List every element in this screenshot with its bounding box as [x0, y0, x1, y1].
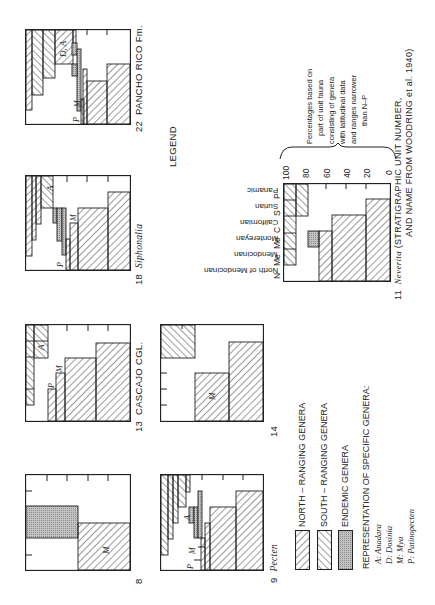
abbrev-n: N — [272, 273, 282, 279]
panel-13-chart — [25, 324, 131, 422]
legend-specific-a: A: Anadara — [373, 524, 383, 564]
panel-18-chart — [25, 175, 131, 271]
tick-40: 40 — [342, 169, 352, 178]
legend-caption-1: 11 Neverita (STRATIGRAPHIC UNIT NUMBER, — [393, 97, 403, 300]
panel-22-name: PANCHO RICO Fm. — [133, 25, 144, 115]
note-line-3: consisting of genera — [327, 77, 336, 144]
axis-tick-labels: 100 80 60 40 20 0 — [283, 160, 393, 182]
legend-caption-2: AND NAME FROM WOODRING et al. 1940) — [404, 48, 414, 237]
label-p: P — [72, 117, 81, 122]
swatch-north-ranging — [295, 530, 310, 570]
caption-text-1: (STRATIGRAPHIC UNIT NUMBER, — [393, 97, 403, 248]
swatch-south-ranging — [317, 530, 332, 570]
label-m: M — [101, 547, 111, 555]
label-a: A — [36, 345, 46, 351]
label-a: A — [45, 186, 55, 192]
caption-genus: Neverita — [393, 251, 403, 284]
panel-9: A M P — [160, 474, 264, 571]
tick-100: 100 — [281, 166, 291, 180]
panel-13-name: CASCAJO CGL. — [133, 342, 144, 415]
legend-specific-m: M: Mya — [395, 537, 405, 564]
legend-label-north: NORTH – RANGING GENERA — [297, 403, 307, 527]
label-m: M — [69, 214, 78, 221]
abbrev-s: S — [272, 210, 282, 216]
panel-14-caption: 14 — [268, 426, 279, 437]
panel-8-chart — [25, 474, 131, 571]
legend-chart-11 — [283, 183, 391, 282]
tick-60: 60 — [322, 169, 332, 178]
label-p: P — [186, 564, 195, 569]
legend-swatches: NORTH – RANGING GENERA SOUTH – RANGING G… — [290, 380, 435, 605]
panel-9-name: Pecten — [269, 544, 279, 572]
panel-22: D, A M P — [25, 29, 131, 125]
legend-label-south: SOUTH – RANGING GENERA — [319, 403, 329, 527]
abbrev-mo: Mo — [272, 237, 282, 249]
panel-18-number: 18 — [133, 274, 144, 285]
legend-label-endemic: ENDEMIC GENERA — [340, 445, 350, 527]
panel-18: A M P — [25, 175, 131, 271]
panel-8-caption: 8 — [133, 578, 144, 584]
province-name-n: North of Mendocinan — [204, 266, 278, 275]
panel-13-caption: 13 CASCAJO CGL. — [133, 342, 144, 432]
panel-14: M — [160, 324, 264, 422]
panel-8: M — [25, 474, 131, 571]
panel-22-number: 22 — [133, 121, 144, 132]
panel-9-chart — [160, 474, 264, 571]
label-m: M — [207, 393, 217, 401]
panel-14-chart — [160, 324, 264, 422]
panel-13-number: 13 — [133, 421, 144, 432]
abbrev-p: P — [272, 193, 282, 199]
percentage-note: Percentages based on part of unit fauna … — [305, 60, 377, 145]
panel-18-caption: 18 Siphonalia — [133, 224, 144, 285]
label-a: A — [183, 515, 192, 520]
legend-specific-title: REPRESENTATION OF SPECIFIC GENERA: — [361, 386, 371, 569]
abbrev-me: Me — [272, 254, 282, 266]
label-m: M — [55, 365, 64, 372]
brace — [278, 143, 398, 161]
note-line-6: than N–P — [360, 95, 369, 126]
abbrev-c: C — [272, 227, 282, 233]
label-m: M — [73, 100, 82, 107]
label-da: D, A — [58, 41, 68, 57]
caption-unit-number: 11 — [393, 290, 403, 300]
note-line-2: part of unit fauna — [316, 80, 325, 136]
legend-specific-d: D: Dosinia — [384, 526, 394, 564]
province-name-list: North of Mendocinan Mendocinan Montereya… — [186, 186, 280, 282]
legend-title: LEGEND — [167, 126, 178, 167]
legend-chart-svg — [283, 183, 391, 282]
label-p: P — [56, 262, 65, 267]
panel-18-name: Siphonalia — [134, 224, 144, 268]
label-m: M — [188, 547, 197, 554]
note-line-5: and ranges narrower — [349, 75, 358, 144]
province-abbrev-column: N Me Mo C S P — [272, 183, 282, 282]
note-line-1: Percentages based on — [305, 69, 314, 144]
panel-9-caption: 9 Pecten — [268, 544, 279, 583]
panel-22-chart — [25, 29, 131, 125]
panel-22-caption: 22 PANCHO RICO Fm. — [133, 25, 144, 132]
note-line-4: with latitudinal data — [338, 80, 347, 144]
label-p: P — [47, 383, 56, 388]
panel-9-number: 9 — [268, 577, 279, 583]
swatch-endemic — [338, 530, 353, 570]
tick-20: 20 — [362, 169, 372, 178]
legend-specific-p: P: Patinopecten — [406, 509, 416, 564]
tick-80: 80 — [301, 169, 311, 178]
panel-13: A P M — [25, 324, 131, 422]
